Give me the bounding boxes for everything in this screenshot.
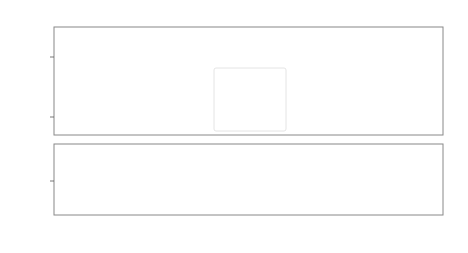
figure [0,0,468,253]
bottom-panel [50,144,443,215]
top-panel [22,27,443,135]
bottom-plot-frame [54,144,443,215]
legend-box [214,68,286,131]
legend [214,68,286,131]
